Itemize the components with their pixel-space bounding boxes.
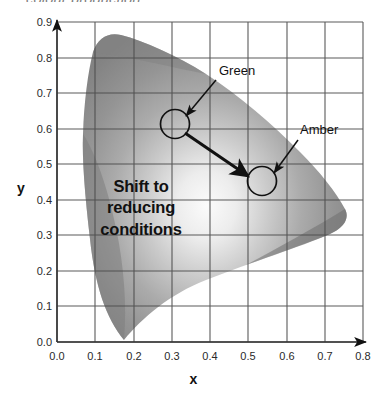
y-tick: 0.2 [18,265,52,277]
y-tick: 0.5 [18,158,52,170]
y-tick: 0.3 [18,229,52,241]
x-tick: 0.6 [270,350,304,362]
y-tick: 0.9 [18,16,52,28]
y-tick: 0.1 [18,300,52,312]
x-tick: 0.5 [231,350,265,362]
chromaticity-figure: colour production [0,0,387,394]
x-tick: 0.1 [78,350,112,362]
x-tick: 0.4 [193,350,227,362]
shift-line-2: reducing [71,197,211,218]
shift-line-1: Shift to [71,176,211,197]
y-axis-ticks: 0.9 0.8 0.7 0.6 0.5 0.4 0.3 0.2 0.1 0.0 [8,0,52,394]
y-axis-title: y [17,180,25,196]
shift-annotation: Shift to reducing conditions [71,176,211,240]
shift-line-3: conditions [71,219,211,240]
x-axis-title: x [0,371,387,387]
x-axis-ticks: 0.0 0.1 0.2 0.3 0.4 0.5 0.6 0.7 0.8 [0,350,387,370]
x-tick: 0.7 [308,350,342,362]
y-tick: 0.6 [18,123,52,135]
x-tick: 0.8 [346,350,380,362]
y-tick: 0.7 [18,87,52,99]
x-tick: 0.2 [117,350,151,362]
green-label: Green [219,63,255,78]
amber-label: Amber [300,122,338,137]
y-tick: 0.8 [18,52,52,64]
y-tick: 0.0 [18,336,52,348]
x-tick: 0.0 [40,350,74,362]
x-tick: 0.3 [155,350,189,362]
